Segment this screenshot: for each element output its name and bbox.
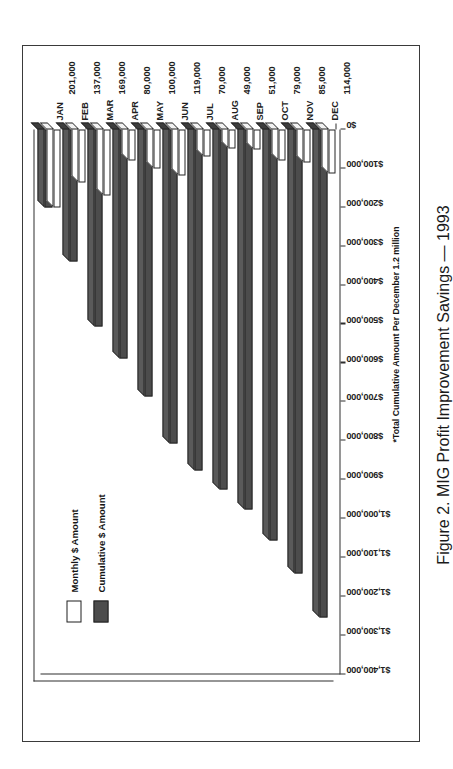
- bar-monthly-dec: [328, 129, 336, 173]
- value-axis-label: $100,000: [346, 158, 383, 168]
- value-axis-tick: [340, 400, 345, 401]
- bar-top-face: [87, 122, 94, 326]
- legend-label-monthly: Monthly $ Amount: [68, 509, 79, 592]
- value-axis-tick: [340, 673, 345, 674]
- category-value-label-nov: 85,000: [316, 66, 326, 94]
- bar-cumulative-oct: [269, 129, 277, 540]
- bar-cumulative-jun: [169, 129, 177, 443]
- legend-swatch-cumulative: [93, 600, 108, 622]
- bar-top-face: [112, 122, 119, 358]
- bar-monthly-oct: [278, 129, 286, 160]
- bar-top-face: [96, 122, 103, 195]
- value-axis-tick: [340, 439, 345, 440]
- bar-face: [228, 129, 236, 148]
- bar-face: [269, 129, 277, 540]
- category-label-feb: FEB: [79, 102, 89, 120]
- bar-monthly-feb: [78, 129, 86, 182]
- value-axis-label: $200,000: [346, 197, 383, 207]
- bar-face: [153, 129, 161, 168]
- bar-cumulative-nov: [294, 129, 302, 573]
- value-axis-tick: [340, 556, 345, 557]
- bar-monthly-mar: [103, 129, 111, 195]
- value-axis-label: $0: [346, 119, 356, 129]
- category-label-apr: APR: [129, 101, 139, 120]
- bar-monthly-apr: [128, 129, 136, 160]
- bar-top-face: [312, 122, 319, 617]
- chart-legend: Monthly $ Amount Cumulative $ Amount: [62, 494, 116, 622]
- category-label-jan: JAN: [54, 102, 64, 120]
- bar-face: [253, 129, 261, 149]
- bar-top-face: [237, 122, 244, 509]
- chart-plot-area: $1,400,000$1,300,000$1,200,000$1,100,000…: [22, 45, 420, 742]
- bar-top-face: [187, 122, 194, 470]
- category-value-label-feb: 137,000: [91, 61, 101, 94]
- bar-face: [319, 129, 327, 617]
- category-value-label-sep: 51,000: [266, 66, 276, 94]
- value-axis-tick: [340, 128, 345, 129]
- figure-caption-wrap: Figure 2. MIG Profit Improvement Savings…: [434, 0, 453, 769]
- value-axis-tick: [340, 634, 345, 635]
- value-axis-tick: [340, 167, 345, 168]
- category-value-label-aug: 49,000: [241, 66, 251, 94]
- bar-cumulative-apr: [119, 129, 127, 358]
- bar-top-face: [46, 122, 53, 207]
- bar-monthly-jan: [53, 129, 61, 207]
- bar-top-face: [137, 122, 144, 396]
- value-axis-label: $300,000: [346, 236, 383, 246]
- value-axis-tick: [340, 206, 345, 207]
- bar-monthly-jul: [203, 129, 211, 156]
- value-axis-tick: [340, 322, 345, 323]
- category-label-sep: SEP: [254, 102, 264, 120]
- category-label-may: MAY: [154, 100, 164, 120]
- bar-face: [103, 129, 111, 195]
- value-axis-tick: [340, 361, 345, 362]
- bar-face: [128, 129, 136, 160]
- category-value-label-jul: 70,000: [216, 66, 226, 94]
- bar-monthly-sep: [253, 129, 261, 149]
- category-label-aug: AUG: [229, 100, 239, 120]
- bar-cumulative-dec: [319, 129, 327, 617]
- legend-label-cumulative: Cumulative $ Amount: [95, 494, 106, 592]
- value-axis-tick: [340, 245, 345, 246]
- value-axis-label: $1,300,000: [346, 625, 390, 635]
- bar-top-face: [162, 122, 169, 443]
- value-axis-tick: [340, 595, 345, 596]
- category-value-label-dec: 114,000: [341, 61, 351, 94]
- value-axis-label: $1,000,000: [346, 508, 390, 518]
- bar-face: [169, 129, 177, 443]
- bar-face: [244, 129, 252, 509]
- bar-face: [194, 129, 202, 470]
- bar-face: [78, 129, 86, 182]
- bar-face: [119, 129, 127, 358]
- value-axis-label: $900,000: [346, 469, 383, 479]
- bar-monthly-aug: [228, 129, 236, 148]
- legend-item-cumulative: Cumulative $ Amount: [89, 494, 111, 622]
- value-axis-tick: [340, 478, 345, 479]
- value-axis-label: $800,000: [346, 430, 383, 440]
- category-label-dec: DEC: [329, 101, 339, 120]
- bar-top-face: [321, 122, 328, 173]
- category-label-oct: OCT: [279, 101, 289, 120]
- value-axis-label: $1,100,000: [346, 547, 390, 557]
- category-value-label-apr: 80,000: [141, 66, 151, 94]
- legend-item-monthly: Monthly $ Amount: [62, 494, 84, 622]
- bar-top-face: [171, 122, 178, 175]
- figure-outer-border: $1,400,000$1,300,000$1,200,000$1,100,000…: [22, 45, 420, 742]
- value-axis-tick: [340, 284, 345, 285]
- bar-top-face: [212, 122, 219, 489]
- bar-face: [294, 129, 302, 573]
- category-label-mar: MAR: [104, 99, 114, 120]
- bar-face: [53, 129, 61, 207]
- bar-face: [278, 129, 286, 160]
- bar-monthly-may: [153, 129, 161, 168]
- bar-face: [328, 129, 336, 173]
- plot-back-left-edge: [33, 680, 333, 681]
- value-axis-label: $1,400,000: [346, 664, 390, 674]
- category-value-label-oct: 79,000: [291, 66, 301, 94]
- category-label-nov: NOV: [304, 100, 314, 120]
- bar-top-face: [287, 122, 294, 573]
- bar-face: [144, 129, 152, 396]
- bar-face: [178, 129, 186, 175]
- value-axis-tick: [340, 517, 345, 518]
- bar-top-face: [71, 122, 78, 182]
